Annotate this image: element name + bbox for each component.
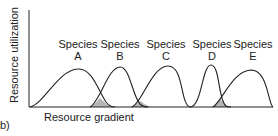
species-letter: A [56,50,100,62]
label-species-c: Species C [144,38,188,62]
label-species-d: Species D [190,38,234,62]
panel-label: b) [0,119,10,131]
species-word: Species [231,38,275,50]
species-letter: B [98,50,142,62]
label-species-e: Species E [231,38,275,62]
niche-partitioning-diagram: Species A Species B Species C Species D … [0,0,278,136]
species-letter: C [144,50,188,62]
species-word: Species [98,38,142,50]
x-axis-label: Resource gradient [44,111,134,123]
diagram-canvas [0,0,278,136]
species-letter: D [190,50,234,62]
y-axis-label: Resource utilization [8,13,20,103]
species-word: Species [56,38,100,50]
species-word: Species [190,38,234,50]
label-species-b: Species B [98,38,142,62]
curve-species-d [190,65,231,107]
species-word: Species [144,38,188,50]
label-species-a: Species A [56,38,100,62]
species-letter: E [231,50,275,62]
curve-species-c [132,66,190,107]
